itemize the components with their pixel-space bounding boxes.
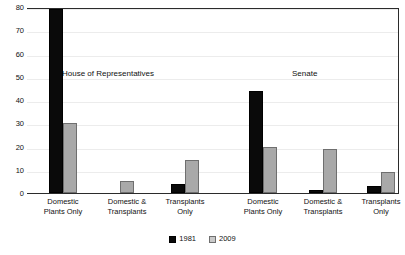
y-tick-label: 20: [2, 144, 24, 152]
y-tick-label: 80: [2, 4, 24, 12]
y-tick-label: 10: [2, 167, 24, 175]
bar-group: [99, 9, 155, 193]
legend: 1981 2009: [0, 235, 405, 243]
bar-chart: 80 70 60 50 40 30 20 10 0 House of Repre…: [0, 0, 405, 255]
bar-1981: [249, 91, 263, 193]
plot-area: House of Representatives Senate: [27, 8, 399, 194]
x-tick-label: Domestic Plants Only: [35, 197, 91, 216]
y-tick-label: 60: [2, 51, 24, 59]
bar-group: [35, 9, 91, 193]
x-tick-label: Transplants Only: [353, 197, 405, 216]
bar-2009: [185, 160, 199, 193]
y-axis: 80 70 60 50 40 30 20 10 0: [0, 8, 24, 194]
x-tick-label: Transplants Only: [157, 197, 213, 216]
x-axis: Domestic Plants Only Domestic & Transpla…: [27, 197, 399, 227]
legend-label: 2009: [219, 235, 236, 243]
bar-2009: [263, 147, 277, 194]
x-tick-label: Domestic & Transplants: [99, 197, 155, 216]
bar-2009: [120, 181, 134, 193]
bar-1981: [309, 190, 323, 193]
bar-group: [157, 9, 213, 193]
bar-1981: [171, 184, 185, 193]
bar-1981: [367, 186, 381, 193]
bar-group: [235, 9, 291, 193]
legend-swatch-icon: [169, 236, 176, 243]
bar-group: [295, 9, 351, 193]
y-tick-label: 40: [2, 97, 24, 105]
bar-2009: [63, 123, 77, 193]
legend-entry-2009: 2009: [209, 235, 236, 243]
x-tick-label: Domestic Plants Only: [235, 197, 291, 216]
bar-group: [353, 9, 405, 193]
y-tick-label: 30: [2, 120, 24, 128]
legend-entry-1981: 1981: [169, 235, 196, 243]
y-tick-label: 70: [2, 27, 24, 35]
x-tick-label: Domestic & Transplants: [295, 197, 351, 216]
legend-label: 1981: [179, 235, 196, 243]
bar-2009: [381, 172, 395, 193]
bar-2009: [323, 149, 337, 193]
bar-1981: [49, 9, 63, 193]
y-tick-label: 50: [2, 74, 24, 82]
y-tick-label: 0: [2, 190, 24, 198]
legend-swatch-icon: [209, 236, 216, 243]
